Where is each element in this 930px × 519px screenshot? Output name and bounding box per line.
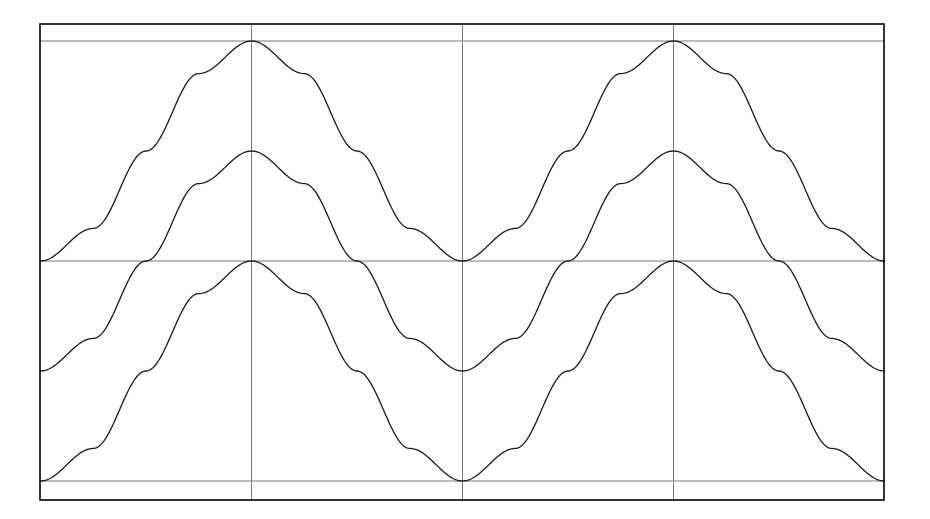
line-chart-plot bbox=[0, 0, 930, 519]
chart-figure bbox=[0, 0, 930, 519]
